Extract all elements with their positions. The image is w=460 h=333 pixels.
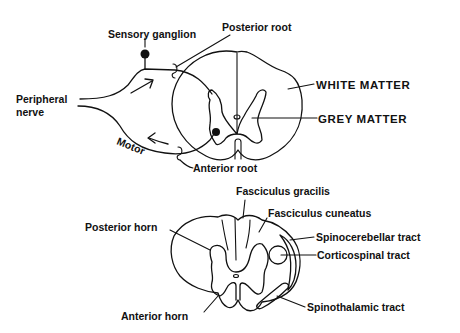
label-anterior-root: Anterior root — [193, 162, 258, 174]
sensory-ganglion-cell — [141, 50, 150, 59]
label-peripheral-nerve-2: nerve — [16, 106, 44, 118]
spinothalamic-leader — [277, 296, 305, 307]
sensory-direction-arrow-icon — [131, 79, 153, 93]
label-fasciculus-cuneatus: Fasciculus cuneatus — [268, 207, 371, 219]
label-spinocerebellar-tract: Spinocerebellar tract — [316, 231, 421, 243]
label-motor: Motor — [115, 135, 147, 157]
top-figure: Sensory ganglion Posterior root Peripher… — [16, 21, 411, 174]
white-matter-leader — [288, 84, 314, 89]
grey-matter-lower — [210, 244, 268, 300]
label-fasciculus-gracilis: Fasciculus gracilis — [236, 185, 330, 197]
motor-direction-arrow-icon — [148, 133, 168, 144]
posterior-horn-leader — [170, 230, 210, 250]
posterior-root-loop — [172, 64, 177, 78]
gracilis-left-boundary — [222, 220, 228, 250]
anterior-median-fissure — [235, 139, 241, 159]
label-white-matter: WHITE MATTER — [316, 79, 411, 91]
spinal-cord-diagram: Sensory ganglion Posterior root Peripher… — [0, 0, 460, 333]
label-sensory-ganglion: Sensory ganglion — [108, 28, 196, 40]
motor-neuron-cell — [212, 128, 220, 136]
anterior-horn-leader — [204, 296, 218, 312]
anterior-root-leader — [180, 160, 193, 168]
label-grey-matter: GREY MATTER — [318, 113, 407, 125]
central-canal-lower — [234, 275, 239, 278]
fasciculus-gracilis-leader — [243, 200, 245, 218]
posterior-median-septum-lower — [235, 218, 236, 260]
label-posterior-horn: Posterior horn — [85, 221, 157, 233]
label-corticospinal-tract: Corticospinal tract — [317, 249, 410, 261]
label-anterior-horn: Anterior horn — [121, 310, 188, 322]
spinocerebellar-leader — [290, 237, 314, 240]
label-posterior-root: Posterior root — [222, 21, 292, 33]
label-peripheral-nerve-1: Peripheral — [16, 93, 67, 105]
label-spinothalamic-tract: Spinothalamic tract — [307, 301, 405, 313]
gracilis-right-boundary — [246, 220, 250, 248]
bottom-figure: Fasciculus gracilis Fasciculus cuneatus … — [85, 185, 421, 322]
